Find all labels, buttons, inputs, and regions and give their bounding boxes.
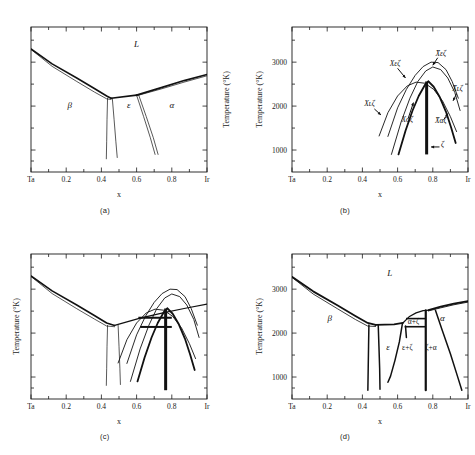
- x-tick-label: 0.2: [62, 175, 72, 184]
- curves-group: XεζX̄εζXʟζX̄ʟζXαζX̄αζζ: [363, 49, 464, 154]
- panel-a-caption: (a): [100, 206, 110, 215]
- panel-c-svg: Ta0.20.40.60.8IrxTemperature (°K): [0, 228, 237, 455]
- curve-zeta-left-bound: [406, 326, 407, 337]
- region-label-alpha-zeta: α+ζ: [408, 317, 419, 326]
- panel-d-svg: Ta0.20.40.60.8Irx100020003000Temperature…: [237, 228, 475, 455]
- panel-a: Ta0.20.40.60.8IrxTemperature (°K)Lβεα (a…: [0, 0, 237, 228]
- panel-d-plot: Ta0.20.40.60.8Irx100020003000Temperature…: [255, 254, 471, 426]
- curves-group: [31, 276, 207, 390]
- curve-label-zeta-phase: ζ: [441, 140, 445, 149]
- curve-epsilon-left-bound: [378, 325, 380, 389]
- region-label-epsilon: ε: [386, 342, 390, 352]
- curve-label-x-L-zeta: Xʟζ: [363, 99, 376, 108]
- x-tick-label: 0.2: [323, 402, 333, 411]
- panel-a-svg: Ta0.20.40.60.8IrxTemperature (°K)Lβεα: [0, 0, 237, 228]
- panel-a-plot: Ta0.20.40.60.8IrxTemperature (°K)Lβεα: [27, 27, 231, 199]
- curve-label-x-eps-zeta: Xεζ: [389, 59, 402, 68]
- curves-group: Lβαα+ζεε+ζζ+α: [292, 268, 468, 390]
- y-tick-label: 2000: [272, 329, 287, 338]
- panel-c-plot: Ta0.20.40.60.8IrxTemperature (°K): [12, 254, 210, 426]
- x-axis-label: x: [378, 417, 382, 426]
- x-tick-label: Ir: [466, 402, 471, 411]
- x-tick-label: Ir: [466, 175, 471, 184]
- curve-eutectic-plateau: [376, 323, 403, 325]
- region-label-alpha: α: [440, 313, 445, 323]
- x-tick-label: 0.8: [428, 402, 438, 411]
- x-tick-label: Ta: [288, 402, 296, 411]
- y-axis-label: Temperature (°K): [255, 71, 264, 128]
- y-axis-label: Temperature (°K): [255, 298, 264, 355]
- curves-group: Lβεα: [31, 39, 207, 159]
- x-tick-label: 0.8: [167, 402, 177, 411]
- panel-b-caption: (b): [340, 206, 350, 215]
- region-label-epsilon-zeta: ε+ζ: [402, 343, 413, 352]
- y-tick-label: 3000: [272, 58, 287, 67]
- curve-label-xbar-eps-zeta: X̄εζ: [434, 49, 447, 58]
- x-tick-label: Ta: [288, 175, 296, 184]
- panel-d: Ta0.20.40.60.8Irx100020003000Temperature…: [237, 228, 475, 455]
- curve-alpha-solidus: [137, 76, 207, 96]
- y-tick-label: 2000: [272, 102, 287, 111]
- x-axis-label: x: [117, 190, 121, 199]
- curve-epsilon-right-bound: [388, 323, 403, 382]
- x-tick-label: Ir: [205, 402, 210, 411]
- curve-epsilon-left-bound: [118, 325, 120, 384]
- region-label-liquid: L: [133, 39, 139, 49]
- curve-alpha-solidus: [428, 302, 468, 311]
- arrowhead-zeta-phase: [431, 145, 434, 148]
- panel-c-caption: (c): [100, 432, 110, 441]
- x-axis-label: x: [117, 417, 121, 426]
- region-label-alpha: α: [169, 100, 174, 110]
- y-axis-label: Temperature (°K): [12, 298, 21, 355]
- curve-label-x-alpha-zeta: Xαζ: [400, 115, 414, 124]
- region-label-beta: β: [66, 100, 72, 110]
- region-label-epsilon: ε: [127, 100, 131, 110]
- x-tick-label: Ta: [27, 402, 35, 411]
- x-tick-label: 0.2: [323, 175, 333, 184]
- curve-epsilon-left-bound: [112, 98, 117, 157]
- x-tick-label: 0.6: [132, 175, 142, 184]
- x-tick-label: 0.6: [393, 175, 403, 184]
- x-tick-label: 0.8: [167, 175, 177, 184]
- y-tick-label: 1000: [272, 146, 287, 155]
- y-tick-label: 1000: [272, 373, 287, 382]
- curve-beta-liquidus: [31, 49, 111, 98]
- y-tick-label: 3000: [272, 285, 287, 294]
- x-tick-label: 0.6: [393, 402, 403, 411]
- x-tick-label: Ir: [205, 175, 210, 184]
- x-tick-label: Ta: [27, 175, 35, 184]
- curve-label-xbar-L-zeta: X̄ʟζ: [451, 84, 464, 93]
- arrowhead-x-alpha-zeta: [411, 103, 414, 106]
- panel-d-caption: (d): [340, 432, 350, 441]
- curve-eutectic-tie-left: [111, 95, 137, 98]
- x-tick-label: 0.2: [62, 402, 72, 411]
- curve-alpha-liquidus: [137, 74, 207, 95]
- curve-beta-solvus: [106, 325, 107, 385]
- curve-beta-liquidus: [31, 276, 115, 325]
- x-tick-label: 0.4: [358, 402, 368, 411]
- panel-b-svg: Ta0.20.40.60.8Irx100020003000Temperature…: [237, 0, 475, 228]
- region-label-zeta-alpha: ζ+α: [425, 343, 436, 352]
- panel-c: Ta0.20.40.60.8IrxTemperature (°K) (c): [0, 228, 237, 455]
- curve-beta-liquidus: [292, 277, 376, 325]
- region-label-liquid: L: [386, 268, 392, 278]
- region-label-beta: β: [327, 313, 333, 323]
- x-axis-label: x: [378, 190, 382, 199]
- curve-X_eps_zeta-parabola: [388, 62, 458, 136]
- panel-b-plot: Ta0.20.40.60.8Irx100020003000Temperature…: [255, 27, 471, 199]
- curve-beta-solvus: [368, 325, 369, 390]
- curve-beta-solvus: [106, 98, 107, 159]
- x-tick-label: 0.6: [132, 402, 142, 411]
- plot-frame: [31, 27, 207, 172]
- x-tick-label: 0.8: [428, 175, 438, 184]
- y-axis-label-shared: Temperature (°K): [222, 71, 231, 128]
- x-tick-label: 0.4: [358, 175, 368, 184]
- panel-b: Ta0.20.40.60.8Irx100020003000Temperature…: [237, 0, 475, 228]
- curve-epsilon-right-bound: [137, 95, 155, 154]
- curve-alpha-solvus: [139, 95, 158, 154]
- x-tick-label: 0.4: [97, 175, 107, 184]
- x-tick-label: 0.4: [97, 402, 107, 411]
